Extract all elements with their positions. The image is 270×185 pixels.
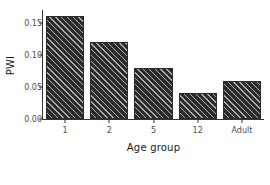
x-axis-tick-mark <box>241 120 242 123</box>
x-axis-tick-mark <box>109 120 110 123</box>
x-axis-tick-label: 1 <box>63 126 68 135</box>
x-axis-tick-mark <box>65 120 66 123</box>
x-axis-tick-label: 5 <box>151 126 156 135</box>
bar <box>46 16 84 119</box>
bar-chart: PWI 0.000.050.100.15 12512Adult Age grou… <box>0 0 270 185</box>
bar <box>179 93 217 119</box>
y-axis-title-text: PWI <box>6 55 17 74</box>
x-axis-tick-label: 2 <box>107 126 112 135</box>
bar <box>223 81 261 119</box>
plot-panel <box>43 10 264 119</box>
bar <box>90 42 128 119</box>
bar <box>134 68 172 119</box>
x-axis-tick-label: 12 <box>193 126 203 135</box>
x-axis-tick-mark <box>153 120 154 123</box>
x-axis-title: Age group <box>43 142 264 153</box>
x-axis-tick-mark <box>197 120 198 123</box>
y-axis-tick-labels: 0.000.050.100.15 <box>16 0 42 130</box>
x-axis-tick-label: Adult <box>231 126 252 135</box>
